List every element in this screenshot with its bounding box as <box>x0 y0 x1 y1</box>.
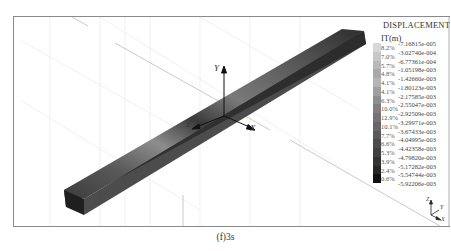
legend-band-percent: 5.3% <box>381 149 395 156</box>
legend-band-value: -3.67433e-003 <box>398 128 436 135</box>
legend-swatch <box>373 61 381 70</box>
legend-band-percent: 2.4% <box>381 167 395 174</box>
legend-band-percent: 8.2% <box>381 44 395 51</box>
legend-band-value: -4.79820e-003 <box>398 154 436 161</box>
legend-band-percent: 5.7% <box>381 62 395 69</box>
legend-band-value: -2.17585e-003 <box>398 93 436 100</box>
legend-band-value: -5.17282e-003 <box>398 163 436 170</box>
figure-caption: (f)3s <box>0 232 451 242</box>
axis-label-x: X <box>250 123 256 133</box>
legend-color-bar <box>373 43 381 183</box>
legend-band-percent: 4.1% <box>381 88 395 95</box>
beam-top-face <box>64 29 364 199</box>
legend-band-value: -1.42660e-003 <box>398 75 436 82</box>
legend-band-value: -2.92509e-003 <box>398 110 436 117</box>
axis-label-z: Z <box>186 121 190 129</box>
legend-swatch <box>373 78 381 87</box>
legend-swatch <box>373 131 381 140</box>
legend-swatch <box>373 148 381 157</box>
legend-swatch <box>373 87 381 96</box>
legend-band-value: -7.16815e-005 <box>398 40 436 47</box>
legend-band-value: -2.55047e-003 <box>398 101 436 108</box>
orientation-triad <box>430 200 442 220</box>
legend-band-value: -1.05198e-003 <box>398 66 436 73</box>
legend-swatch <box>373 122 381 131</box>
legend-swatch <box>373 96 381 105</box>
legend-band-value: -4.42358e-003 <box>398 145 436 152</box>
legend-band-percent: 6.3% <box>381 97 395 104</box>
legend-band-percent: 0.6% <box>381 175 395 182</box>
legend-swatch <box>373 139 381 148</box>
axis-label-y: Y <box>214 63 219 73</box>
legend-band-value: -3.29971e-003 <box>398 119 436 126</box>
legend-band-value: -3.02740e-004 <box>398 49 436 56</box>
triad-label-y: Y <box>440 204 443 210</box>
triad-label-z: Z <box>426 196 429 202</box>
legend-band-percent: 7.0% <box>381 53 395 60</box>
legend-swatch <box>373 43 381 52</box>
legend-band-percent: 3.9% <box>381 158 395 165</box>
legend-swatch <box>373 52 381 61</box>
legend-band-percent: 10.1% <box>381 123 398 130</box>
legend-band-value: -6.77361e-004 <box>398 58 436 65</box>
legend-band-percent: 4.8% <box>381 70 395 77</box>
legend-title: DISPLACEMENT <box>383 20 450 30</box>
legend-swatch <box>373 157 381 166</box>
legend-band-percent: 6.6% <box>381 140 395 147</box>
legend-swatch <box>373 166 381 175</box>
beam-front-face <box>84 31 366 215</box>
legend-swatch <box>373 174 381 183</box>
legend-swatch <box>373 113 381 122</box>
legend-band-value: -5.54744e-003 <box>398 171 436 178</box>
legend-band-value: -1.80123e-003 <box>398 84 436 91</box>
legend-band-percent: 10.0% <box>381 105 398 112</box>
triad-label-x: X <box>441 216 445 222</box>
legend-swatch <box>373 69 381 78</box>
legend-band-percent: 4.1% <box>381 79 395 86</box>
legend-swatch <box>373 104 381 113</box>
legend-band-percent: 12.9% <box>381 114 398 121</box>
legend-band-percent: 7.7% <box>381 132 395 139</box>
legend-band-value: -4.04995e-003 <box>398 136 436 143</box>
legend-band-value: -5.92206e-003 <box>398 180 436 187</box>
